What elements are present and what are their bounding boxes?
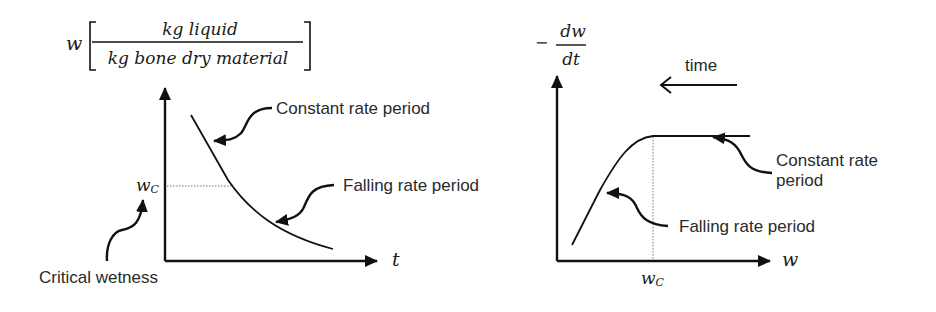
right-falling-label: Falling rate period <box>679 217 815 236</box>
left-wc-label: wC <box>136 175 160 196</box>
time-label: time <box>685 56 717 75</box>
critical-wetness-label: Critical wetness <box>39 268 158 287</box>
left-bracket-open <box>90 22 96 70</box>
left-bracket-close <box>304 22 310 70</box>
right-constant-pointer <box>713 137 772 173</box>
left-constant-label: Constant rate period <box>276 99 430 118</box>
left-y-numerator: kg liquid <box>162 19 238 39</box>
right-constant-label-2: period <box>776 171 823 190</box>
right-y-sign: − <box>535 33 548 52</box>
diagram-canvas: w kg liquid kg bone dry material t wC Co… <box>0 0 936 312</box>
left-x-label: t <box>392 248 400 270</box>
right-constant-label-1: Constant rate <box>776 151 878 170</box>
right-chart: − dw dt w time wC Constant rate period F… <box>535 21 878 289</box>
left-falling-pointer <box>276 185 334 222</box>
left-falling-label: Falling rate period <box>343 176 479 195</box>
critical-wetness-pointer <box>107 200 143 261</box>
constant-rate-pointer <box>214 108 272 141</box>
drying-diagram: w kg liquid kg bone dry material t wC Co… <box>0 0 936 312</box>
right-falling-pointer <box>607 193 668 226</box>
right-y-numerator: dw <box>560 21 586 41</box>
right-wc-label: wC <box>641 268 665 289</box>
right-y-denominator: dt <box>562 49 580 69</box>
left-y-denominator: kg bone dry material <box>108 48 288 68</box>
left-drying-curve <box>191 115 333 249</box>
right-x-label: w <box>782 248 798 270</box>
left-chart: w kg liquid kg bone dry material t wC Co… <box>39 19 479 287</box>
left-y-var: w <box>66 32 82 54</box>
